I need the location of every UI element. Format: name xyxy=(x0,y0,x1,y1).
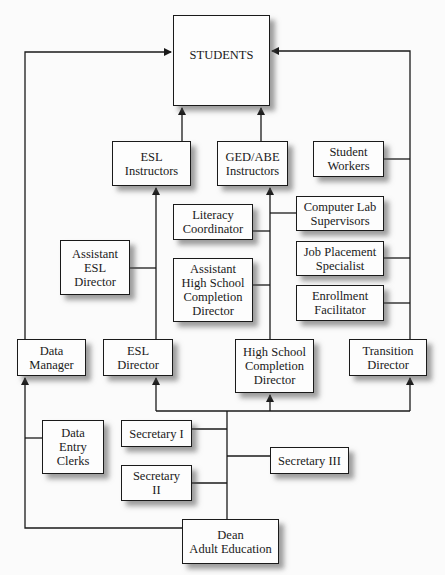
job-placement-specialist-box: Job Placement Specialist xyxy=(296,241,384,276)
transition-director-box: Transition Director xyxy=(349,339,427,376)
dean-adult-education-box: Dean Adult Education xyxy=(182,519,279,564)
ged-abe-instructors-box: GED/ABE Instructors xyxy=(217,141,288,186)
literacy-coordinator-box: Literacy Coordinator xyxy=(173,204,253,240)
secretary-1-box: Secretary I xyxy=(121,420,192,447)
secretary-2-box: Secretary II xyxy=(121,465,192,501)
hs-completion-director-box: High School Completion Director xyxy=(235,339,314,393)
data-manager-box: Data Manager xyxy=(17,339,86,376)
secretary-3-box: Secretary III xyxy=(270,447,349,474)
student-workers-box: Student Workers xyxy=(313,141,384,177)
enrollment-facilitator-box: Enrollment Facilitator xyxy=(296,285,384,321)
data-entry-clerks-box: Data Entry Clerks xyxy=(42,420,104,474)
esl-instructors-box: ESL Instructors xyxy=(112,141,191,186)
assistant-hs-completion-director-box: Assistant High School Completion Directo… xyxy=(173,258,253,322)
line-data-manager-to-students xyxy=(25,52,171,339)
assistant-esl-director-box: Assistant ESL Director xyxy=(60,240,130,295)
students-box: STUDENTS xyxy=(173,15,270,106)
computer-lab-supervisors-box: Computer Lab Supervisors xyxy=(296,196,384,231)
esl-director-box: ESL Director xyxy=(103,339,173,376)
